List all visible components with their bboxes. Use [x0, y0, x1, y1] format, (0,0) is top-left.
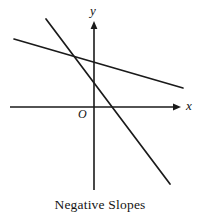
y-axis-label: y	[90, 4, 96, 17]
shallow-negative-slope-line	[14, 39, 183, 88]
origin-label: O	[78, 108, 87, 121]
x-axis-label: x	[186, 99, 192, 112]
y-axis-arrowhead-icon	[91, 21, 98, 29]
x-axis	[10, 104, 181, 111]
y-axis	[91, 21, 98, 190]
figure-caption: Negative Slopes	[0, 197, 200, 213]
coordinate-graph	[0, 0, 200, 218]
steep-negative-slope-line	[46, 19, 170, 184]
negative-slopes-figure: y x O Negative Slopes	[0, 0, 200, 218]
x-axis-arrowhead-icon	[173, 104, 181, 111]
